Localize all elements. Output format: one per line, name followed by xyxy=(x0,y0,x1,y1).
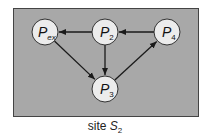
caption-prefix: site xyxy=(88,119,110,133)
node-Pex: Pex xyxy=(32,19,58,45)
process-graph-diagram: PexP2P4P3 xyxy=(0,0,210,137)
node-P3: P3 xyxy=(92,76,118,102)
caption-symbol: S xyxy=(110,119,118,133)
node-P4: P4 xyxy=(154,19,180,45)
node-P2: P2 xyxy=(92,19,118,45)
site-caption: site S2 xyxy=(0,119,210,135)
caption-subscript: 2 xyxy=(118,126,122,135)
